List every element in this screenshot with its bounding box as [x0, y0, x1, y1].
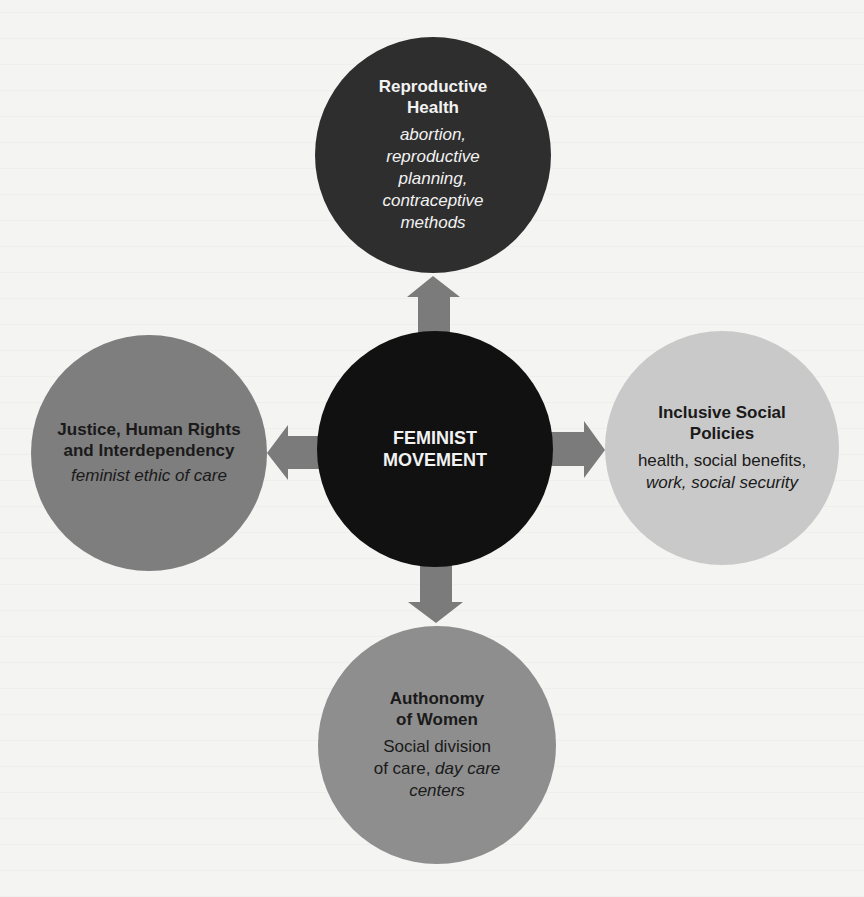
title-line: Health — [379, 97, 488, 118]
subtitle-line: Social division — [374, 736, 501, 758]
node-title: Inclusive Social Policies — [658, 402, 786, 445]
subtitle-line: of care, day care — [374, 758, 501, 780]
node-title: FEMINIST MOVEMENT — [383, 427, 487, 472]
title-line: Authonomy — [390, 688, 484, 709]
title-line: FEMINIST — [383, 427, 487, 450]
node-title: Authonomy of Women — [390, 688, 484, 731]
node-authonomy-of-women: Authonomy of Women Social division of ca… — [318, 626, 556, 864]
title-line: Justice, Human Rights — [57, 419, 240, 440]
subtitle-line: planning, — [382, 168, 483, 190]
node-subtitle: Social division of care, day care center… — [374, 736, 501, 802]
subtitle-text-italic: day care — [435, 759, 500, 778]
title-line: Reproductive — [379, 76, 488, 97]
subtitle-line: health, social benefits, — [638, 450, 806, 472]
subtitle-text-plain: of care, — [374, 759, 435, 778]
node-subtitle: feminist ethic of care — [71, 465, 227, 487]
subtitle-line: reproductive — [382, 146, 483, 168]
node-title: Justice, Human Rights and Interdependenc… — [57, 419, 240, 462]
node-justice-human-rights: Justice, Human Rights and Interdependenc… — [31, 335, 267, 571]
node-subtitle: abortion, reproductive planning, contrac… — [382, 124, 483, 234]
title-line: and Interdependency — [57, 440, 240, 461]
node-reproductive-health: Reproductive Health abortion, reproducti… — [325, 47, 541, 263]
title-line: Inclusive Social — [658, 402, 786, 423]
subtitle-line: methods — [382, 212, 483, 234]
node-inclusive-social-policies: Inclusive Social Policies health, social… — [605, 331, 839, 565]
title-line: of Women — [390, 709, 484, 730]
arrow-down-icon — [408, 560, 463, 623]
node-subtitle: health, social benefits, work, social se… — [638, 450, 806, 494]
subtitle-line: centers — [374, 780, 501, 802]
subtitle-line: abortion, — [382, 124, 483, 146]
title-line: MOVEMENT — [383, 449, 487, 472]
subtitle-line: feminist ethic of care — [71, 465, 227, 487]
node-title: Reproductive Health — [379, 76, 488, 119]
subtitle-line: contraceptive — [382, 190, 483, 212]
subtitle-line: work, social security — [638, 472, 806, 494]
title-line: Policies — [658, 423, 786, 444]
node-feminist-movement: FEMINIST MOVEMENT — [317, 331, 553, 567]
